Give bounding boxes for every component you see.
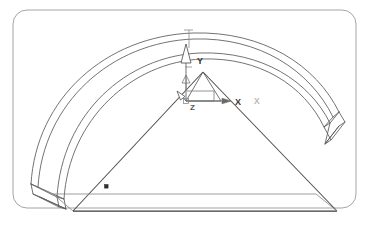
x-axis-label-secondary: X: [254, 96, 260, 106]
x-axis-label: X: [235, 97, 241, 107]
technical-drawing: Y X X Z: [0, 0, 369, 240]
diagram-canvas: Y X X Z: [0, 0, 369, 240]
node-marker: [105, 185, 109, 189]
z-axis-label: Z: [190, 103, 195, 112]
y-axis-label: Y: [197, 56, 203, 66]
